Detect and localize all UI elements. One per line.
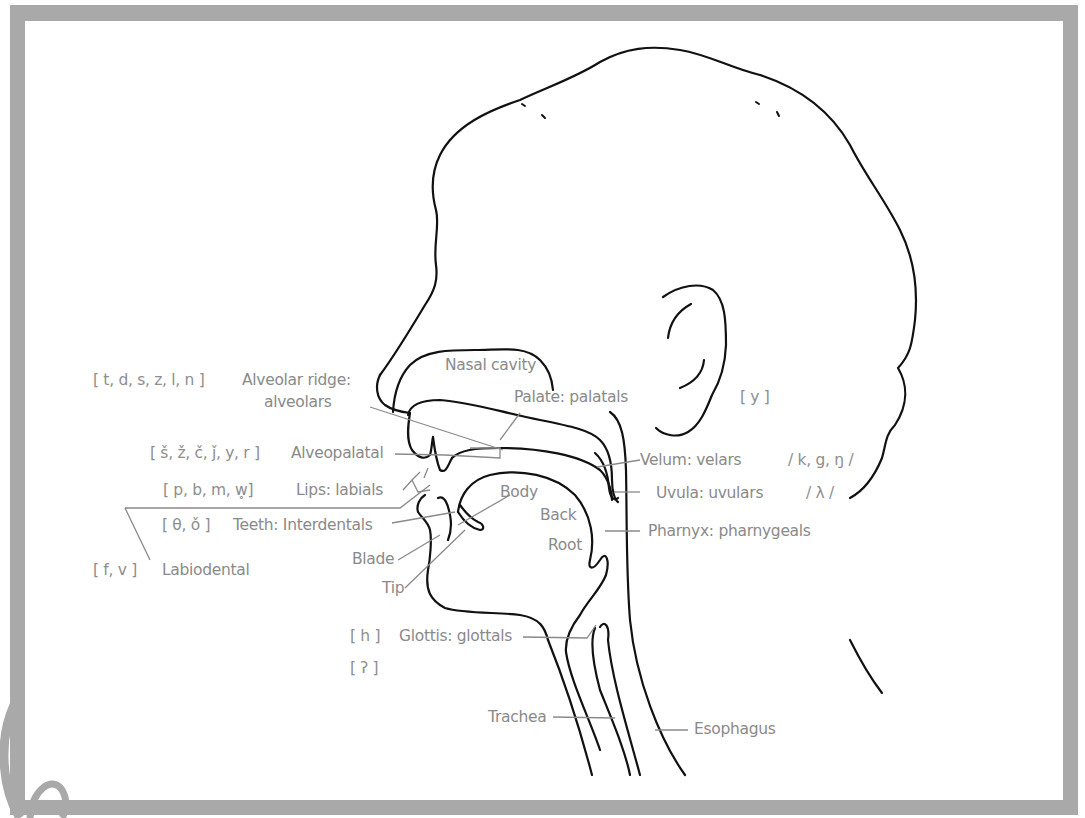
- lower-teeth: [438, 497, 451, 540]
- label-palate: Palate: palatals: [514, 390, 628, 406]
- upper-teeth: [433, 437, 452, 471]
- epiglottis: [592, 628, 630, 775]
- sounds-labiodentals: [ f, v ]: [93, 563, 137, 579]
- label-alveopalatal: Alveopalatal: [291, 446, 384, 462]
- label-esophagus: Esophagus: [694, 722, 776, 738]
- sounds-glottal-h: [ h ]: [350, 629, 380, 645]
- trachea-front: [548, 640, 592, 775]
- label-tongue-back: Back: [540, 508, 576, 524]
- leader-palate: [500, 413, 520, 440]
- leader-trachea: [553, 717, 615, 718]
- leader-alveolar: [370, 407, 503, 450]
- label-alveolars: alveolars: [264, 395, 332, 411]
- sounds-glottal-stop: [ ʔ ]: [350, 661, 378, 677]
- label-lips: Lips: labials: [296, 483, 383, 499]
- sounds-interdentals: [ θ, ǒ ]: [162, 518, 210, 534]
- head-outline: [380, 48, 916, 498]
- ear-outline: [656, 286, 726, 436]
- leader-teeth: [392, 512, 455, 523]
- label-labiodental: Labiodental: [162, 563, 250, 579]
- label-velum: Velum: velars: [640, 453, 741, 469]
- label-blade: Blade: [352, 552, 394, 568]
- label-tip: Tip: [382, 581, 404, 597]
- label-uvula: Uvula: uvulars: [656, 486, 763, 502]
- ear-inner-lower: [680, 360, 704, 388]
- label-glottis: Glottis: glottals: [399, 629, 512, 645]
- label-nasal-cavity: Nasal cavity: [445, 358, 536, 374]
- label-tongue-root: Root: [548, 538, 582, 554]
- sounds-labials: [ p, b, m, w̥]: [163, 483, 253, 499]
- head-sagittal-drawing: [0, 0, 1085, 818]
- sounds-uvulars: / λ /: [806, 486, 834, 502]
- label-alveolar-ridge: Alveolar ridge:: [242, 373, 351, 389]
- lower-lip: [417, 495, 548, 640]
- sounds-alveolars: [ t, d, s, z, l, n ]: [93, 373, 204, 389]
- sounds-palatals: [ y ]: [740, 390, 770, 406]
- leader-glottis: [523, 625, 596, 638]
- sounds-velars: / k, g, ŋ /: [788, 453, 853, 469]
- label-tongue-body: Body: [500, 485, 538, 501]
- leader-blade: [398, 535, 440, 560]
- upper-lip: [408, 413, 433, 458]
- label-trachea: Trachea: [488, 710, 546, 726]
- label-teeth: Teeth: Interdentals: [233, 518, 373, 534]
- ear-inner: [668, 304, 691, 338]
- sounds-alveopalatals: [ š, ž, č, ǰ, y, r ]: [150, 446, 260, 462]
- label-pharynx: Pharnyx: pharnygeals: [648, 524, 811, 540]
